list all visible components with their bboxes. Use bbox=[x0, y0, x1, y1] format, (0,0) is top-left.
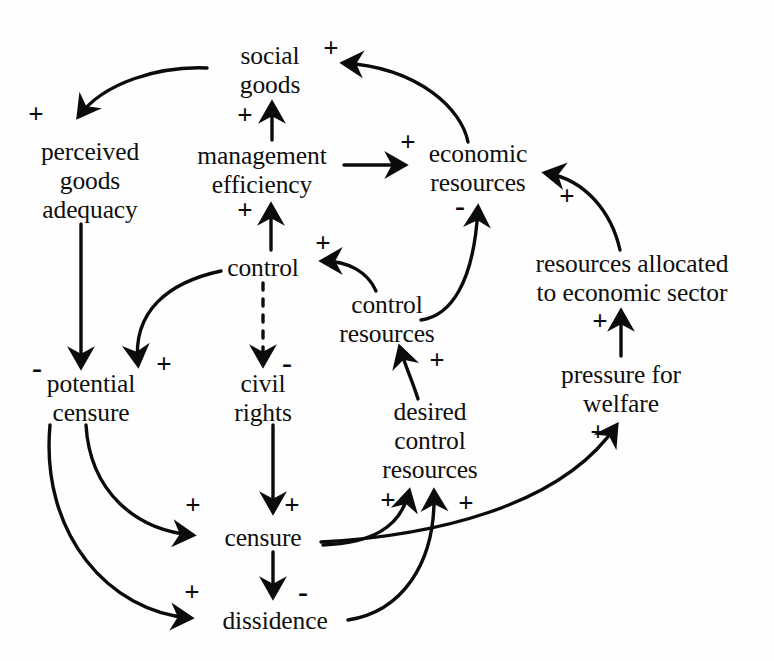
node-desired-control-resources[interactable]: desired control resources bbox=[382, 397, 477, 484]
edge-potential-censure-to-dissidence bbox=[49, 425, 190, 618]
causal-loop-diagram: social goods perceived goods adequacy ma… bbox=[0, 0, 774, 661]
node-label-line: economic bbox=[429, 139, 527, 168]
node-label-line: desired bbox=[382, 397, 477, 426]
edge-censure-to-desired-control-resources bbox=[323, 492, 409, 545]
node-label-line: adequacy bbox=[41, 195, 139, 224]
node-label-line: potential bbox=[47, 369, 135, 398]
node-perceived-goods-adequacy[interactable]: perceived goods adequacy bbox=[41, 137, 139, 224]
node-social-goods[interactable]: social goods bbox=[240, 41, 300, 99]
polarity-sign-potential-censure-to-censure: + bbox=[185, 492, 200, 519]
node-economic-resources[interactable]: economic resources bbox=[429, 139, 527, 197]
polarity-sign-censure-to-dissidence: - bbox=[298, 577, 308, 607]
polarity-sign-control-to-potential-censure: + bbox=[156, 351, 171, 378]
node-censure[interactable]: censure bbox=[224, 523, 301, 552]
polarity-sign-censure-to-pressure-for-welfare: + bbox=[590, 419, 605, 446]
node-label-line: censure bbox=[47, 398, 135, 427]
node-label-line: efficiency bbox=[197, 170, 326, 199]
polarity-sign-management-efficiency-to-economic-resources: + bbox=[400, 129, 415, 156]
node-label-line: control bbox=[382, 426, 477, 455]
polarity-sign-pressure-for-welfare-to-resources-allocated: + bbox=[592, 308, 607, 335]
edge-control-to-potential-censure bbox=[137, 271, 221, 364]
node-label-line: goods bbox=[41, 166, 139, 195]
polarity-sign-control-to-management-efficiency: + bbox=[237, 197, 252, 224]
node-label-line: resources allocated bbox=[536, 249, 729, 278]
node-label-line: resources bbox=[339, 319, 434, 348]
node-label-line: resources bbox=[429, 168, 527, 197]
edge-potential-censure-to-censure bbox=[86, 425, 192, 535]
polarity-sign-desired-control-resources-to-control-resources: + bbox=[429, 347, 444, 374]
polarity-sign-resources-allocated-to-economic-resources: + bbox=[559, 183, 574, 210]
node-control[interactable]: control bbox=[227, 253, 299, 282]
polarity-sign-control-resources-to-economic-resources: - bbox=[455, 191, 465, 221]
node-label-line: pressure for bbox=[561, 360, 681, 389]
edge-control-resources-to-control bbox=[323, 261, 376, 291]
node-potential-censure[interactable]: potential censure bbox=[47, 369, 135, 427]
node-label-line: control bbox=[339, 290, 434, 319]
node-label-line: dissidence bbox=[222, 606, 327, 635]
node-control-resources[interactable]: control resources bbox=[339, 290, 434, 348]
node-label-line: goods bbox=[240, 70, 300, 99]
polarity-sign-censure-to-desired-control-resources: + bbox=[380, 487, 395, 514]
edge-desired-control-resources-to-control-resources bbox=[400, 348, 418, 399]
polarity-sign-social-goods-to-perceived-goods-adequacy: + bbox=[28, 101, 43, 128]
node-pressure-for-welfare[interactable]: pressure for welfare bbox=[561, 360, 681, 418]
node-label-line: management bbox=[197, 141, 326, 170]
edge-resources-allocated-to-economic-resources bbox=[546, 173, 620, 250]
node-label-line: resources bbox=[382, 455, 477, 484]
polarity-sign-potential-censure-to-dissidence: + bbox=[184, 579, 199, 606]
node-label-line: perceived bbox=[41, 137, 139, 166]
polarity-sign-civil-rights-to-censure: + bbox=[284, 492, 299, 519]
node-label-line: to economic sector bbox=[536, 278, 729, 307]
node-label-line: social bbox=[240, 41, 300, 70]
node-resources-allocated-to-economic-sector[interactable]: resources allocated to economic sector bbox=[536, 249, 729, 307]
polarity-sign-control-resources-to-control: + bbox=[315, 230, 330, 257]
node-label-line: control bbox=[227, 253, 299, 282]
polarity-sign-dissidence-to-desired-control-resources: + bbox=[458, 490, 473, 517]
polarity-sign-perceived-goods-adequacy-to-potential-censure: - bbox=[32, 353, 42, 383]
node-label-line: rights bbox=[234, 398, 292, 427]
polarity-sign-management-efficiency-to-social-goods: + bbox=[237, 102, 252, 129]
node-dissidence[interactable]: dissidence bbox=[222, 606, 327, 635]
node-management-efficiency[interactable]: management efficiency bbox=[197, 141, 326, 199]
polarity-sign-control-to-civil-rights: - bbox=[282, 348, 292, 378]
node-label-line: welfare bbox=[561, 389, 681, 418]
node-label-line: censure bbox=[224, 523, 301, 552]
polarity-sign-economic-resources-to-social-goods: + bbox=[323, 35, 338, 62]
edge-social-goods-to-perceived-goods-adequacy bbox=[79, 68, 207, 116]
